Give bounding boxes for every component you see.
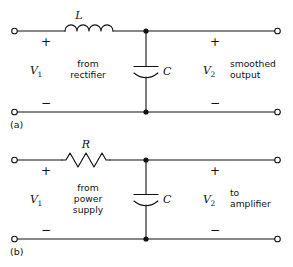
polarity-b-input-minus: − xyxy=(41,223,51,237)
terminal-b-input-top[interactable] xyxy=(12,157,18,163)
resistor-zigzag-icon xyxy=(62,153,110,167)
polarity-a-output-plus: + xyxy=(210,35,220,49)
inductor-label: L xyxy=(74,9,82,22)
voltage-subscript-b-input: 1 xyxy=(38,199,43,208)
terminal-a-input-bottom[interactable] xyxy=(12,109,18,115)
polarity-b-output-plus: + xyxy=(210,164,220,178)
polarity-b-input-plus: + xyxy=(41,164,51,178)
description-b-input-line2: power xyxy=(74,193,103,204)
terminal-a-output-bottom[interactable] xyxy=(275,109,281,115)
description-a-input-line2: rectifier xyxy=(70,69,106,80)
resistor-label: R xyxy=(81,138,90,151)
description-a-input: from rectifier xyxy=(70,58,106,80)
capacitor-label-a: C xyxy=(163,65,172,78)
voltage-label-b-input: V 1 xyxy=(30,193,42,208)
description-a-input-line1: from xyxy=(77,58,98,69)
voltage-subscript-b-output: 2 xyxy=(211,199,216,208)
voltage-label-a-input: V 1 xyxy=(30,64,42,79)
description-a-output-line1: smoothed xyxy=(230,58,276,69)
capacitor-label-b: C xyxy=(163,193,172,206)
polarity-a-input-plus: + xyxy=(41,35,51,49)
junction-dot-b-top xyxy=(143,157,148,162)
circuit-diagram: L C + − + − V 1 from rectifier V 2 smoot… xyxy=(0,0,293,267)
description-b-input: from power supply xyxy=(73,182,104,215)
description-b-output-line1: to xyxy=(230,187,240,198)
terminal-b-output-bottom[interactable] xyxy=(275,236,281,242)
capacitor-polarized-icon xyxy=(134,67,158,78)
capacitor-polarized-icon-b xyxy=(134,195,158,206)
description-a-output: smoothed output xyxy=(230,58,276,80)
terminal-a-input-top[interactable] xyxy=(12,28,18,34)
circuit-a: L C + − + − V 1 from rectifier V 2 smoot… xyxy=(10,9,280,130)
description-a-output-line2: output xyxy=(230,69,261,80)
circuit-diagram-canvas: L C + − + − V 1 from rectifier V 2 smoot… xyxy=(0,0,293,267)
inductor-coil-icon xyxy=(65,25,113,31)
voltage-label-a-output: V 2 xyxy=(203,64,216,79)
description-b-input-line1: from xyxy=(77,182,98,193)
polarity-a-input-minus: − xyxy=(41,96,51,110)
voltage-label-b-output: V 2 xyxy=(203,193,216,208)
circuit-b: R C + − + − V 1 from power supply V 2 to… xyxy=(10,138,280,257)
figure-label-b: (b) xyxy=(10,246,23,257)
junction-dot-a-top xyxy=(143,28,148,33)
terminal-b-input-bottom[interactable] xyxy=(12,236,18,242)
terminal-a-output-top[interactable] xyxy=(275,28,281,34)
junction-dot-b-bottom xyxy=(143,236,148,241)
description-b-output: to amplifier xyxy=(230,187,271,209)
description-b-output-line2: amplifier xyxy=(230,198,271,209)
junction-dot-a-bottom xyxy=(143,109,148,114)
figure-label-a: (a) xyxy=(10,119,23,130)
description-b-input-line3: supply xyxy=(73,204,104,215)
polarity-b-output-minus: − xyxy=(210,223,220,237)
voltage-subscript-a-output: 2 xyxy=(211,70,216,79)
terminal-b-output-top[interactable] xyxy=(275,157,281,163)
voltage-subscript-a-input: 1 xyxy=(38,70,43,79)
polarity-a-output-minus: − xyxy=(210,96,220,110)
